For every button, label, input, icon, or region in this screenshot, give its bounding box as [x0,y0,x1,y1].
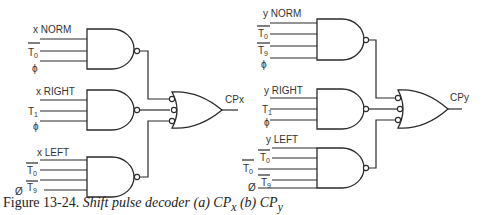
label-x-norm: x NORM [33,24,71,35]
label-t0-inverted-outer: T0 [243,163,253,175]
label-t0-inverted: T0 [260,152,270,164]
label-y-norm: y NORM [263,8,301,19]
diagram-a: x NORM T0 ϕ x RIGHT T1 ϕ x LEFT [15,24,244,197]
diagram-b: y NORM T0 T9 ϕ y RIGHT T1 ϕ [242,8,469,193]
nand-gate-x-left: x LEFT T0 T9 Ø [15,121,170,197]
label-phi-slash: Ø [248,182,256,193]
label-t1: T1 [28,106,38,118]
nand-gate-x-right: x RIGHT T1 ϕ [28,86,170,132]
caption-number: Figure 13-24. [3,195,79,210]
nand-gate-y-right: y RIGHT T1 ϕ [262,85,397,129]
label-x-right: x RIGHT [36,86,75,97]
label-phi: ϕ [32,63,38,74]
label-t9-inverted: T9 [258,45,268,57]
label-phi: ϕ [264,117,270,128]
or-gate-cpy: CPy [395,90,469,128]
label-t1: T1 [262,104,272,116]
output-label-cpx: CPx [225,94,244,105]
or-gate-cpx: CPx [169,92,244,128]
label-y-left: y LEFT [266,134,298,145]
label-t0: T0 [28,47,38,59]
figure-caption: Figure 13-24. Shift pulse decoder (a) CP… [3,195,283,214]
shift-pulse-decoder-diagram: x NORM T0 ϕ x RIGHT T1 ϕ x LEFT [0,0,488,215]
label-x-left: x LEFT [37,147,69,158]
label-y-right: y RIGHT [264,85,303,96]
label-t0-inverted: T0 [258,28,268,40]
label-t0-inverted: T0 [27,165,37,177]
caption-title: Shift pulse decoder (a) CPx (b) CPy [83,195,283,210]
output-label-cpy: CPy [450,92,469,103]
label-phi: ϕ [33,121,39,132]
label-t9-inverted: T9 [261,177,271,189]
label-phi: ϕ [261,59,267,70]
label-t9-inverted: T9 [27,182,37,194]
nand-gate-y-left: y LEFT T0 T0 T9 Ø [242,120,397,193]
